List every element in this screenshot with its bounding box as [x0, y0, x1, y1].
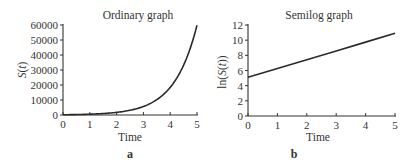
x-tick-label: 3 — [333, 119, 339, 131]
panel-label: a — [127, 147, 133, 161]
y-tick-label: 0 — [53, 109, 59, 121]
data-line — [248, 33, 395, 77]
y-tick-label: 8 — [238, 49, 244, 61]
x-tick-label: 4 — [363, 119, 369, 131]
y-tick-label: 10000 — [31, 94, 59, 106]
x-axis-label: Time — [306, 131, 330, 143]
x-tick-label: 2 — [304, 119, 310, 131]
x-tick-label: 4 — [167, 118, 173, 130]
x-tick-label: 0 — [245, 119, 251, 131]
panel-label: b — [291, 147, 298, 161]
y-tick-label: 60000 — [31, 19, 59, 31]
y-tick-label: 0 — [238, 110, 244, 122]
y-axis: 024681012 — [232, 19, 248, 122]
x-tick-label: 3 — [141, 118, 147, 130]
y-tick-label: 30000 — [31, 64, 59, 76]
x-tick-label: 0 — [60, 118, 66, 130]
y-axis-label: S(t) — [16, 62, 29, 79]
y-tick-label: 12 — [232, 19, 243, 31]
x-tick-label: 5 — [392, 119, 398, 131]
x-axis: 012345 — [245, 113, 398, 131]
y-tick-label: 2 — [238, 95, 244, 107]
y-tick-label: 20000 — [31, 79, 59, 91]
x-tick-label: 5 — [194, 118, 200, 130]
y-tick-label: 40000 — [31, 49, 59, 61]
y-tick-label: 10 — [232, 34, 244, 46]
y-tick-label: 50000 — [31, 34, 59, 46]
x-tick-label: 2 — [114, 118, 120, 130]
x-tick-label: 1 — [87, 118, 93, 130]
chart-title: Semilog graph — [285, 9, 353, 22]
y-axis-label: ln(S(t)) — [216, 55, 229, 88]
y-axis: 0100002000030000400005000060000 — [31, 19, 64, 121]
ordinary-graph-panel: Ordinary graph 0100002000030000400005000… — [16, 9, 200, 161]
chart-title: Ordinary graph — [103, 9, 174, 22]
semilog-graph-panel: Semilog graph 024681012 012345 ln(S(t)) … — [216, 9, 398, 161]
y-tick-label: 6 — [238, 65, 244, 77]
y-tick-label: 4 — [238, 80, 244, 92]
data-line — [63, 25, 197, 115]
x-axis-label: Time — [118, 131, 142, 143]
x-tick-label: 1 — [275, 119, 281, 131]
